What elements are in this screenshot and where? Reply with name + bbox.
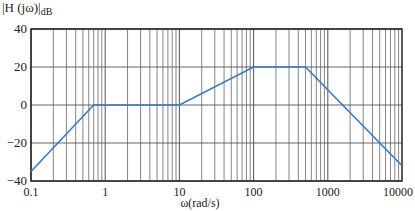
x-axis-title: ω(rad/s) — [180, 197, 219, 209]
y-axis-title-main: |H (jω)| — [2, 0, 41, 15]
grid — [31, 29, 402, 181]
y-tick-label: 0 — [0, 98, 27, 111]
y-axis-title-sub: dB — [41, 6, 53, 17]
y-tick-label: 40 — [0, 22, 27, 35]
x-tick-label: 10000 — [383, 186, 413, 198]
x-tick-label: 1 — [102, 186, 108, 198]
bode-plot — [0, 0, 415, 211]
y-tick-label: −20 — [0, 136, 27, 149]
x-tick-label: 100 — [245, 186, 263, 198]
y-tick-label: 20 — [0, 60, 27, 73]
x-tick-label: 1000 — [316, 186, 340, 198]
x-tick-label: 0.1 — [24, 186, 39, 198]
magnitude-line — [31, 67, 402, 172]
y-axis-title: |H (jω)|dB — [2, 0, 52, 17]
